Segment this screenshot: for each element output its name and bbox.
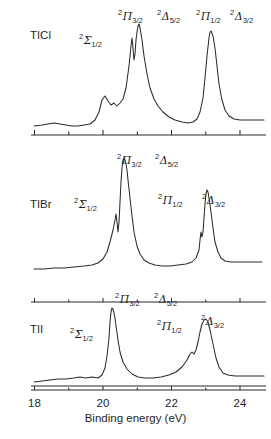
peak-label-delta32-tli: 2Δ3/2 <box>201 313 224 330</box>
peak-label-delta52-tlcl: 2Δ5/2 <box>157 8 180 25</box>
species-label-tlbr: TlBr <box>30 198 52 210</box>
peak-label-pi12-tli: 2Π1/2 <box>157 318 182 335</box>
spectrum-trace-tlbr <box>34 158 262 269</box>
peak-label-pi32-tli: 2Π3/2 <box>115 291 140 308</box>
peak-label-delta52-tli: 2Δ5/2 <box>154 291 177 308</box>
spectrum-panel-tli: TlI 2Σ1/2 2Π3/2 2Δ5/2 2Π1/2 2Δ3/2 <box>0 282 271 397</box>
peak-label-sigma12-tli: 2Σ1/2 <box>70 326 93 343</box>
spectrum-panel-tlbr: TlBr 2Σ1/2 2Π3/2 2Δ5/2 2Π1/2 2Δ3/2 <box>0 140 271 290</box>
peak-label-pi32-tlcl: 2Π3/2 <box>118 8 143 25</box>
x-tick-label-20: 20 <box>97 397 110 409</box>
species-label-tlcl: TlCl <box>30 29 51 41</box>
axis-ticks-tlcl <box>35 130 241 135</box>
species-label-tli: TlI <box>30 323 43 335</box>
peak-label-delta32-tlcl: 2Δ3/2 <box>230 8 253 25</box>
peak-label-delta52-tlbr: 2Δ5/2 <box>155 152 178 169</box>
spectrum-panel-tlcl: TlCl 2Σ1/2 2Π3/2 2Δ5/2 2Π1/2 2Δ3/2 <box>0 0 271 148</box>
peak-label-sigma12-tlcl: 2Σ1/2 <box>79 32 102 49</box>
x-tick-label-24: 24 <box>234 397 247 409</box>
x-axis: 18 20 22 24 Binding energy (eV) <box>0 386 271 439</box>
spectra-figure: TlCl 2Σ1/2 2Π3/2 2Δ5/2 2Π1/2 2Δ3/2 TlBr … <box>0 0 271 439</box>
peak-label-sigma12-tlbr: 2Σ1/2 <box>74 196 97 213</box>
x-axis-title: Binding energy (eV) <box>0 412 271 424</box>
spectrum-trace-tli <box>34 308 264 382</box>
peak-label-pi12-tlcl: 2Π1/2 <box>196 8 221 25</box>
x-tick-label-18: 18 <box>28 397 41 409</box>
x-tick-label-22: 22 <box>165 397 178 409</box>
peak-label-pi12-tlbr: 2Π1/2 <box>158 192 183 209</box>
peak-label-pi32-tlbr: 2Π3/2 <box>117 152 142 169</box>
spectrum-trace-tlcl <box>34 24 264 126</box>
peak-label-delta32-tlbr: 2Δ3/2 <box>202 192 225 209</box>
